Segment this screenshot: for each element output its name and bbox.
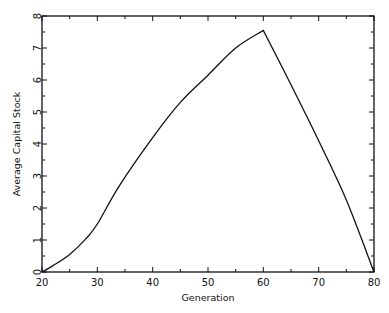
x-tick-label: 60 [257, 277, 270, 288]
y-tick-label: 8 [32, 13, 43, 19]
x-tick-label: 30 [91, 277, 104, 288]
x-tick-label: 70 [312, 277, 325, 288]
x-tick-label: 40 [146, 277, 159, 288]
plot-frame [42, 16, 374, 272]
x-axis-title: Generation [182, 292, 235, 303]
line-chart: 20304050607080 012345678 Generation Aver… [0, 0, 389, 313]
y-tick-label: 6 [32, 77, 43, 83]
y-axis-title: Average Capital Stock [11, 91, 22, 196]
capital-stock-line [42, 30, 374, 272]
y-tick-label: 7 [32, 45, 43, 51]
x-tick-label: 20 [36, 277, 49, 288]
y-tick-label: 3 [32, 173, 43, 179]
plot-area-border [42, 16, 374, 272]
y-tick-label: 5 [32, 109, 43, 115]
y-tick-label: 0 [32, 269, 43, 275]
x-tick-label: 50 [202, 277, 215, 288]
y-axis-tick-labels: 012345678 [32, 13, 43, 275]
x-axis-tick-labels: 20304050607080 [36, 277, 381, 288]
y-tick-label: 4 [32, 141, 43, 147]
y-tick-label: 1 [32, 237, 43, 243]
x-tick-label: 80 [368, 277, 381, 288]
y-tick-label: 2 [32, 205, 43, 211]
axis-ticks [42, 16, 374, 272]
